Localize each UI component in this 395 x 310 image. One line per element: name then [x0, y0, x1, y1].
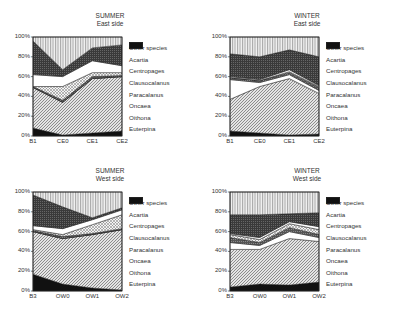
y-tick-label: 100%	[205, 188, 227, 194]
legend-item: Acartia	[326, 209, 367, 221]
y-tick-label: 80%	[8, 53, 30, 59]
legend-label: Oithona	[326, 269, 348, 276]
legend-label: Centropages	[326, 222, 361, 229]
y-tick-label: 60%	[205, 228, 227, 234]
legend-swatch-icon	[326, 42, 340, 49]
legend-item: Oithona	[326, 267, 367, 279]
legend-label: Paracalanus	[326, 91, 360, 98]
legend-item: Oncaea	[129, 100, 170, 112]
y-tick-label: 40%	[8, 247, 30, 253]
legend-item: Centropages	[326, 220, 367, 232]
legend: Other speciesAcartiaCentropagesClausocal…	[129, 42, 170, 135]
legend-label: Centropages	[129, 222, 164, 229]
legend-label: Oithona	[129, 269, 151, 276]
legend-item: Centropages	[129, 65, 170, 77]
x-tick-label: CE1	[279, 138, 299, 144]
legend-item: Acartia	[129, 54, 170, 66]
legend-label: Oithona	[326, 114, 348, 121]
x-tick-label: OW0	[250, 293, 270, 299]
legend: Other speciesAcartiaCentropagesClausocal…	[326, 42, 367, 135]
legend-item: Clausocalanus	[129, 232, 170, 244]
legend-item: Clausocalanus	[326, 77, 367, 89]
legend-item: Paracalanus	[129, 88, 170, 100]
legend-item: Oithona	[326, 112, 367, 124]
legend-label: Acartia	[326, 56, 345, 63]
chart-winter-east: WINTEREast side0%20%40%60%80%100%B1CE0CE…	[197, 0, 394, 155]
legend-label: Euterpina	[326, 125, 353, 132]
x-tick-label: CE2	[112, 138, 132, 144]
legend-item: Euterpina	[326, 278, 367, 290]
legend-label: Oncaea	[326, 257, 348, 264]
legend-item: Oncaea	[129, 255, 170, 267]
legend-label: Oncaea	[326, 102, 348, 109]
legend-label: Clausocalanus	[326, 79, 367, 86]
legend: Other speciesAcartiaCentropagesClausocal…	[129, 197, 170, 290]
legend-item: Acartia	[129, 209, 170, 221]
x-tick-label: B1	[220, 138, 240, 144]
y-tick-label: 20%	[205, 112, 227, 118]
chart-summer-east: SUMMEREast side0%20%40%60%80%100%B1CE0CE…	[0, 0, 197, 155]
x-tick-label: B3	[220, 293, 240, 299]
legend-item: Paracalanus	[129, 243, 170, 255]
legend-label: Centropages	[326, 67, 361, 74]
y-tick-label: 20%	[205, 267, 227, 273]
y-tick-label: 80%	[205, 53, 227, 59]
y-tick-label: 100%	[8, 188, 30, 194]
x-tick-label: OW0	[53, 293, 73, 299]
legend-label: Paracalanus	[129, 91, 163, 98]
legend-label: Clausocalanus	[129, 234, 170, 241]
chart-summer-west: SUMMERWest side0%20%40%60%80%100%B3OW0OW…	[0, 155, 197, 310]
area-other-species	[230, 192, 319, 215]
legend-label: Euterpina	[129, 125, 156, 132]
y-tick-label: 40%	[8, 92, 30, 98]
legend-item: Paracalanus	[326, 243, 367, 255]
legend-item: Acartia	[326, 54, 367, 66]
y-tick-label: 80%	[205, 208, 227, 214]
legend-label: Oncaea	[129, 102, 151, 109]
y-tick-label: 60%	[205, 73, 227, 79]
legend-label: Acartia	[129, 56, 148, 63]
legend-swatch-icon	[129, 197, 143, 204]
legend-swatch-icon	[129, 42, 143, 49]
legend-item: Paracalanus	[326, 88, 367, 100]
legend-swatch-icon	[326, 197, 340, 204]
legend-label: Acartia	[129, 211, 148, 218]
y-tick-label: 20%	[8, 112, 30, 118]
legend-label: Clausocalanus	[326, 234, 367, 241]
y-tick-label: 60%	[8, 228, 30, 234]
x-tick-label: OW2	[112, 293, 132, 299]
chart-winter-west: WINTERWest side0%20%40%60%80%100%B3OW0OW…	[197, 155, 394, 310]
y-tick-label: 20%	[8, 267, 30, 273]
x-tick-label: B1	[23, 138, 43, 144]
legend-item: Oithona	[129, 112, 170, 124]
legend-label: Clausocalanus	[129, 79, 170, 86]
legend-item: Euterpina	[129, 123, 170, 135]
legend-label: Acartia	[326, 211, 345, 218]
legend-label: Centropages	[129, 67, 164, 74]
x-tick-label: OW1	[82, 293, 102, 299]
x-tick-label: OW1	[279, 293, 299, 299]
y-tick-label: 40%	[205, 247, 227, 253]
legend-label: Euterpina	[129, 280, 156, 287]
x-tick-label: CE1	[82, 138, 102, 144]
x-tick-label: CE0	[53, 138, 73, 144]
legend-item: Oncaea	[326, 255, 367, 267]
legend-item: Clausocalanus	[326, 232, 367, 244]
legend-label: Oncaea	[129, 257, 151, 264]
y-tick-label: 60%	[8, 73, 30, 79]
x-tick-label: CE0	[250, 138, 270, 144]
legend-label: Paracalanus	[129, 246, 163, 253]
y-tick-label: 80%	[8, 208, 30, 214]
legend-item: Euterpina	[129, 278, 170, 290]
legend-item: Euterpina	[326, 123, 367, 135]
legend-item: Centropages	[326, 65, 367, 77]
y-tick-label: 100%	[8, 33, 30, 39]
y-tick-label: 40%	[205, 92, 227, 98]
legend-item: Centropages	[129, 220, 170, 232]
legend-item: Oncaea	[326, 100, 367, 112]
legend-label: Paracalanus	[326, 246, 360, 253]
x-tick-label: CE2	[309, 138, 329, 144]
legend: Other speciesAcartiaCentropagesClausocal…	[326, 197, 367, 290]
legend-label: Euterpina	[326, 280, 353, 287]
legend-item: Clausocalanus	[129, 77, 170, 89]
